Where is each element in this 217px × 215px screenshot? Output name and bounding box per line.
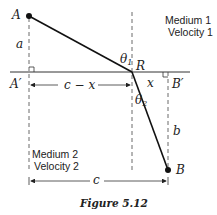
refraction-diagram: A a A′ R θ1 θ2 x B′ b B c − x c Medium 1… bbox=[0, 0, 217, 215]
label-theta2: θ2 bbox=[135, 93, 147, 108]
medium2-label: Medium 2 bbox=[32, 148, 78, 160]
label-x: x bbox=[147, 76, 154, 90]
medium1-label: Medium 1 bbox=[165, 14, 211, 26]
label-c-minus-x: c − x bbox=[64, 78, 95, 92]
figure-caption: Figure 5.12 bbox=[79, 197, 148, 209]
point-b-dot bbox=[165, 167, 171, 173]
label-a-prime: A′ bbox=[9, 77, 22, 91]
label-a-point: A bbox=[11, 8, 21, 22]
right-angle-a bbox=[29, 67, 34, 72]
point-a-dot bbox=[26, 13, 32, 19]
label-b-point: B bbox=[175, 163, 185, 177]
label-b-prime: B′ bbox=[171, 77, 184, 91]
label-b-length: b bbox=[173, 124, 181, 138]
incident-ray bbox=[29, 16, 132, 72]
velocity1-label: Velocity 1 bbox=[168, 26, 213, 38]
label-c: c bbox=[93, 173, 100, 187]
velocity2-label: Velocity 2 bbox=[34, 160, 79, 172]
right-angle-b bbox=[163, 72, 168, 77]
label-a-length: a bbox=[16, 37, 23, 51]
label-theta1: θ1 bbox=[120, 52, 132, 67]
label-r: R bbox=[135, 59, 145, 73]
